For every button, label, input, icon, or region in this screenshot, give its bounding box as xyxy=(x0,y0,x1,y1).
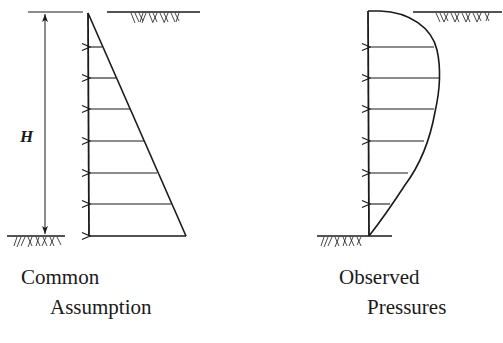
common-assumption-diagram xyxy=(7,12,200,247)
wall-line xyxy=(368,11,369,236)
soil-hatching-icon xyxy=(14,237,61,247)
triangular-pressure-envelope xyxy=(88,13,186,236)
caption-common: Common xyxy=(21,265,99,289)
observed-pressure-envelope xyxy=(368,11,439,236)
soil-hatching-icon xyxy=(436,13,489,22)
observed-pressures-diagram xyxy=(317,11,502,247)
caption-assumption: Assumption xyxy=(50,295,152,319)
ground-surface-bottom-left-panel xyxy=(7,236,65,247)
pressure-arrows-left xyxy=(90,47,186,236)
ground-surface-top-right-panel xyxy=(413,12,502,22)
soil-hatching-icon xyxy=(321,237,361,247)
ground-surface-top-left-panel xyxy=(107,12,200,23)
pressure-arrows-right xyxy=(370,47,439,204)
dimension-label-h: H xyxy=(20,127,33,147)
pressure-diagram xyxy=(0,0,503,343)
wall-line xyxy=(88,13,89,236)
caption-observed: Observed xyxy=(339,265,419,289)
ground-surface-bottom-right-panel xyxy=(317,236,392,247)
caption-pressures: Pressures xyxy=(367,295,446,319)
soil-hatching-icon xyxy=(131,13,179,23)
